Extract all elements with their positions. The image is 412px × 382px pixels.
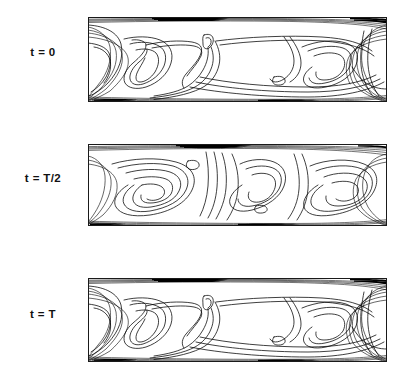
contour-plot-t0	[88, 17, 387, 102]
panel-frame-tfull	[89, 279, 387, 362]
contour-figure: t = 0	[0, 0, 412, 382]
contour-plot-tfull	[88, 278, 387, 362]
contour-lines-t0	[88, 18, 387, 102]
contour-plot-thalf	[88, 144, 387, 226]
panel-label-tfull: t = T	[0, 308, 86, 320]
contour-lines-tfull	[88, 279, 387, 362]
contour-lines-thalf	[88, 145, 387, 226]
panel-label-t0: t = 0	[0, 46, 86, 58]
panel-label-thalf: t = T/2	[0, 172, 86, 184]
